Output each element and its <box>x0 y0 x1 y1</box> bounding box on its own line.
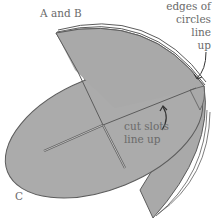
label-edges-line-1: edges of <box>166 0 211 13</box>
label-edges-line-2: circles <box>166 13 211 26</box>
label-edges-line-up: edges of circles line up <box>166 0 211 52</box>
interlocking-circles-diagram: A and B edges of circles line up cut slo… <box>0 0 214 221</box>
label-edges-line-3: line <box>166 26 211 39</box>
label-slots-line-2: line up <box>124 133 169 146</box>
arrow-edges-icon <box>197 52 206 78</box>
label-c: C <box>15 190 23 203</box>
label-edges-line-4: up <box>166 39 211 52</box>
label-cut-slots: cut slots line up <box>124 120 169 146</box>
label-slots-line-1: cut slots <box>124 120 169 133</box>
label-a-and-b: A and B <box>40 7 82 20</box>
